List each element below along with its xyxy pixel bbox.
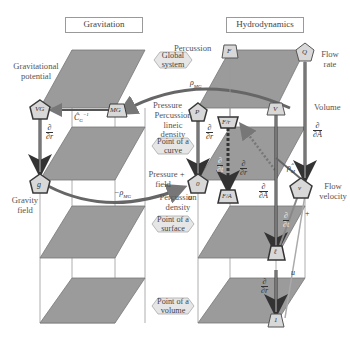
plus-symbol-2: +	[305, 209, 310, 218]
node-zero-label: 0	[196, 180, 200, 188]
div-l-operator: ∂∂r	[261, 278, 268, 295]
label-volume: Volume	[314, 103, 341, 113]
cg-inv-symbol: ĈG−1	[74, 112, 89, 123]
dt-operator-1: ∂∂t	[217, 157, 223, 174]
label-grav-potential: Gravitational potential	[10, 62, 62, 81]
node-mg-label: MG	[110, 106, 121, 114]
div-q-operator: ∂∂A	[313, 122, 322, 139]
node-fr-label: F/r	[222, 118, 230, 125]
node-v-small-label: v	[298, 184, 301, 192]
node-q-label: Q	[302, 48, 307, 56]
u-symbol-1: u	[188, 193, 192, 202]
div-v-operator: ∂∂A	[259, 183, 268, 200]
label-percussion: Percussion	[174, 44, 211, 54]
hydrodynamics-title: Hydrodynamics	[226, 17, 304, 33]
hydro-plane-1	[198, 50, 305, 108]
label-percussion-lineic-density: Percussion lineic density	[150, 111, 196, 140]
node-p-label: P	[195, 108, 199, 116]
rho-mg-symbol: ρMG	[190, 78, 202, 89]
gravitation-title: Gravitation	[65, 17, 143, 33]
hydro-plane-4	[198, 278, 305, 323]
grad-grav-operator: ∂∂r	[46, 124, 53, 141]
label-percussion-density: Percussion density	[155, 193, 201, 212]
rho-m-symbol: ρ̂M	[287, 163, 295, 174]
node-l-label: ℓ	[274, 248, 277, 256]
label-pressure-field: Pressure field	[148, 170, 178, 189]
label-gravity-field: Gravity field	[10, 196, 40, 215]
grav-plane-3	[40, 206, 145, 258]
node-v-label: V	[273, 105, 277, 113]
hex-label-volume: Point of a volume	[155, 298, 191, 314]
hex-label-surface: Point of a surface	[155, 216, 191, 232]
node-fa-label: F/A	[222, 192, 232, 199]
u-symbol-2: u	[291, 268, 295, 277]
grav-plane-2	[40, 127, 145, 180]
dt-operator-2: ∂∂t	[283, 212, 289, 229]
tonti-diagram: Gravitation Hydrodynamics Global system …	[0, 0, 350, 344]
node-one-label: 1	[274, 316, 278, 324]
plus-symbol-1: +	[180, 170, 185, 179]
neg-rho-mg-symbol: −ρMG	[114, 188, 131, 199]
node-vg-label: VG	[35, 105, 44, 113]
label-flow-velocity: Flow velocity	[318, 182, 348, 201]
hex-label-global: Global system	[156, 52, 190, 68]
node-f-label: F	[227, 47, 231, 55]
hex-label-curve: Point of a curve	[155, 138, 191, 154]
grad-pressure-operator: ∂∂r	[206, 124, 213, 141]
node-g-label: g	[37, 180, 41, 189]
grav-plane-4	[40, 278, 145, 323]
div-fr-operator: ∂∂r	[240, 160, 247, 177]
label-flow-rate: Flow rate	[318, 50, 342, 69]
